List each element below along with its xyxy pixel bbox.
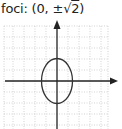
axes (5, 27, 112, 129)
y-axis-arrow-icon (54, 20, 61, 29)
grid (4, 26, 108, 129)
x-axis-arrow-icon (110, 78, 118, 85)
ellipse-diagram (0, 0, 122, 129)
